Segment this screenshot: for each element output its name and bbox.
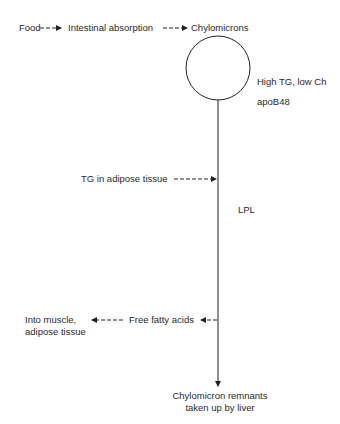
label-intestinal-absorption: Intestinal absorption: [68, 22, 153, 34]
label-endpoint-line2: taken up by liver: [168, 402, 272, 414]
label-tg-adipose: TG in adipose tissue: [81, 173, 168, 185]
diagram-lines: [0, 0, 340, 424]
label-endpoint-line1: Chylomicron remnants: [168, 390, 272, 402]
label-free-fatty-acids: Free fatty acids: [129, 314, 194, 326]
label-destination-line2: adipose tissue: [25, 326, 86, 338]
label-composition: High TG, low Ch: [257, 76, 327, 88]
chylomicron-particle-circle: [186, 36, 250, 100]
label-lpl: LPL: [238, 204, 255, 216]
label-destination-line1: Into muscle,: [25, 314, 76, 326]
label-chylomicrons: Chylomicrons: [191, 22, 249, 34]
label-apoprotein: apoB48: [257, 96, 290, 108]
label-food: Food: [19, 22, 41, 34]
